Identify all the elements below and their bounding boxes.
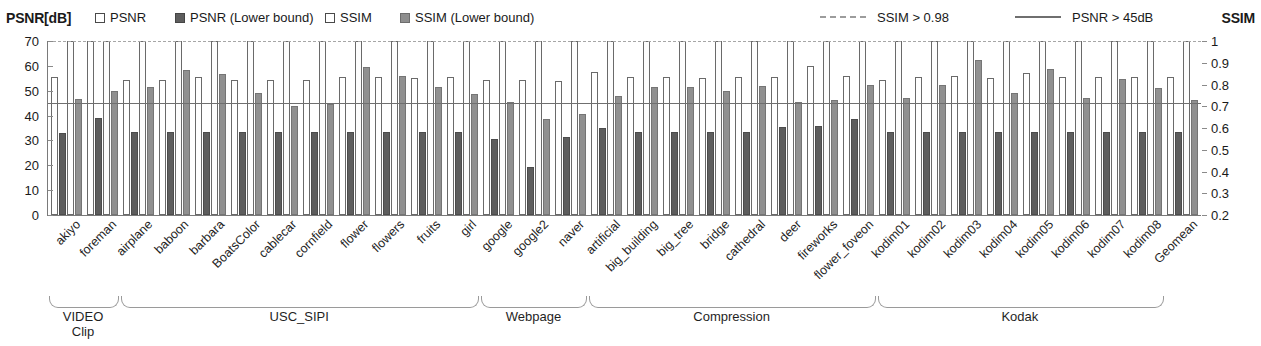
category-groups: VIDEOClipUSC_SIPIWebpageCompressionKodak [47, 296, 1200, 346]
bar-psnr-lower-bound [239, 132, 246, 215]
bar-psnr-lower-bound [779, 127, 786, 215]
bar-ssim-lower-bound [831, 100, 838, 215]
bar-psnr-lower-bound [599, 128, 606, 215]
group-label: Webpage [481, 309, 585, 324]
bar-ssim [787, 41, 794, 215]
legend-item-psnr-lower-bound[interactable]: PSNR (Lower bound) [175, 11, 314, 24]
bar-ssim-lower-bound [759, 86, 766, 215]
legend-swatch-icon [325, 13, 335, 23]
y-axis-right-tick-label: 0.6 [1211, 122, 1229, 135]
bar-psnr [627, 77, 634, 215]
y-axis-left-tick-label: 60 [25, 59, 39, 72]
bar-ssim-lower-bound [1119, 79, 1126, 215]
y-axis-right-tick-label: 0.2 [1211, 209, 1229, 222]
legend-item-label: PSNR (Lower bound) [190, 11, 314, 24]
bar-ssim [67, 41, 74, 215]
x-axis-label: fruits [415, 218, 443, 246]
chart-legend: PSNR[dB] SSIM PSNRPSNR (Lower bound)SSIM… [0, 8, 1261, 32]
bar-psnr [915, 77, 922, 215]
legend-item-ssim-lower-bound[interactable]: SSIM (Lower bound) [400, 11, 534, 24]
bar-psnr [735, 77, 742, 215]
bar-psnr [303, 80, 310, 215]
y-axis-left-tickmark [48, 140, 53, 141]
bar-ssim-lower-bound [543, 119, 550, 215]
y-axis-left-tickmark [48, 190, 53, 191]
legend-item-psnr[interactable]: PSNR [95, 11, 146, 24]
y-axis-right-tick-label: 0.8 [1211, 78, 1229, 91]
bar-ssim-lower-bound [1047, 69, 1054, 215]
group-brace [589, 296, 875, 308]
bar-psnr-lower-bound [203, 132, 210, 215]
bar-psnr [1095, 77, 1102, 215]
bar-ssim [535, 41, 542, 215]
x-axis-label: flowers [370, 218, 407, 255]
bar-psnr-lower-bound [887, 132, 894, 215]
y-axis-right-tickmark [1202, 63, 1207, 64]
bar-ssim-lower-bound [399, 76, 406, 215]
bar-psnr-lower-bound [347, 132, 354, 215]
bar-ssim [247, 41, 254, 215]
bar-ssim-lower-bound [147, 87, 154, 215]
legend-threshold-psnr[interactable]: PSNR > 45dB [1015, 11, 1153, 24]
bar-group [336, 41, 372, 215]
x-axis-label: kodim04 [977, 218, 1019, 260]
bar-psnr [951, 76, 958, 215]
bar-group [444, 41, 480, 215]
x-axis-label: girl [459, 218, 480, 239]
bar-group [588, 41, 624, 215]
bar-psnr-lower-bound [527, 167, 534, 215]
bar-ssim-lower-bound [723, 91, 730, 215]
bar-ssim [1147, 41, 1154, 215]
bar-group [805, 41, 841, 215]
bar-group [48, 41, 84, 215]
legend-threshold-ssim[interactable]: SSIM > 0.98 [820, 11, 949, 24]
bar-group [1093, 41, 1129, 215]
bar-group [841, 41, 877, 215]
bar-ssim [355, 41, 362, 215]
bar-ssim-lower-bound [903, 98, 910, 215]
bar-ssim-lower-bound [1083, 98, 1090, 215]
legend-item-ssim[interactable]: SSIM [325, 11, 372, 24]
bar-ssim [1183, 41, 1190, 215]
bar-psnr [375, 77, 382, 215]
bar-psnr-lower-bound [563, 137, 570, 215]
bar-psnr [843, 76, 850, 215]
bar-psnr [195, 77, 202, 215]
bar-ssim [1111, 41, 1118, 215]
y-axis-right-tick-label: 0.9 [1211, 56, 1229, 69]
bar-psnr [159, 80, 166, 215]
bar-psnr [123, 80, 130, 215]
bar-ssim [679, 41, 686, 215]
y-axis-left: 010203040506070 [0, 41, 45, 215]
bar-psnr-lower-bound [815, 126, 822, 215]
x-axis-label: big_tree [655, 218, 696, 259]
bar-group [372, 41, 408, 215]
bar-ssim [571, 41, 578, 215]
x-axis-label: kodim02 [905, 218, 947, 260]
bar-psnr-lower-bound [131, 132, 138, 215]
group-label-line1: VIDEO [49, 309, 117, 324]
y-axis-left-tick-label: 30 [25, 134, 39, 147]
y-axis-right-tick-label: 0.3 [1211, 187, 1229, 200]
y-axis-left-tickmark [48, 41, 53, 42]
x-axis-label: airplane [115, 218, 155, 258]
x-axis-label: foreman [78, 218, 119, 259]
bar-psnr [447, 77, 454, 215]
bar-ssim-lower-bound [651, 87, 658, 215]
bar-ssim-lower-bound [183, 70, 190, 215]
bar-psnr-lower-bound [95, 118, 102, 215]
y-axis-right-tickmark [1202, 85, 1207, 86]
bar-group [84, 41, 120, 215]
bar-ssim [643, 41, 650, 215]
y-axis-left-tick-label: 40 [25, 109, 39, 122]
x-axis-label: cablecar [257, 218, 299, 260]
bar-ssim-lower-bound [291, 106, 298, 215]
x-axis-label: deer [777, 218, 804, 245]
bar-group [1165, 41, 1201, 215]
group-brace [878, 296, 1164, 308]
y-axis-left-tick-label: 10 [25, 184, 39, 197]
bar-ssim [283, 41, 290, 215]
bar-psnr-lower-bound [383, 132, 390, 215]
left-axis-title: PSNR[dB] [6, 10, 71, 26]
bar-psnr-lower-bound [851, 119, 858, 215]
